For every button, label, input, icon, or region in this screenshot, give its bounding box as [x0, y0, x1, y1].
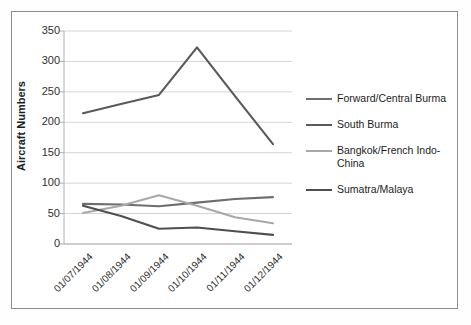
- chart-legend: Forward/Central BurmaSouth BurmaBangkok/…: [306, 92, 456, 209]
- legend-item-label: South Burma: [337, 118, 398, 131]
- legend-item-label: Forward/Central Burma: [337, 92, 446, 105]
- chart-figure: 350300250200150100500 Aircraft Numbers 0…: [0, 0, 471, 325]
- legend-swatch-line-icon: [306, 124, 332, 126]
- legend-item-label: Bangkok/French Indo-China: [337, 144, 455, 170]
- legend-item[interactable]: Forward/Central Burma: [306, 92, 456, 105]
- legend-item[interactable]: Bangkok/French Indo-China: [306, 144, 456, 170]
- legend-swatch-line-icon: [306, 98, 332, 100]
- legend-swatch-line-icon: [306, 189, 332, 191]
- legend-swatch-line-icon: [306, 150, 332, 152]
- legend-item[interactable]: Sumatra/Malaya: [306, 183, 456, 196]
- legend-item[interactable]: South Burma: [306, 118, 456, 131]
- legend-item-label: Sumatra/Malaya: [337, 183, 413, 196]
